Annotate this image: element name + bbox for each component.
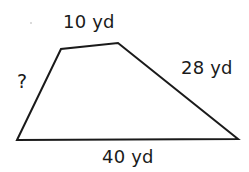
side-label-top: 10 yd	[63, 13, 115, 31]
side-label-right: 28 yd	[181, 59, 233, 77]
side-label-left-unknown: ?	[17, 72, 27, 90]
geometry-figure: 10 yd 28 yd 40 yd ?	[0, 0, 249, 172]
scan-artifact-speck	[30, 22, 32, 24]
side-label-bottom: 40 yd	[102, 148, 154, 166]
